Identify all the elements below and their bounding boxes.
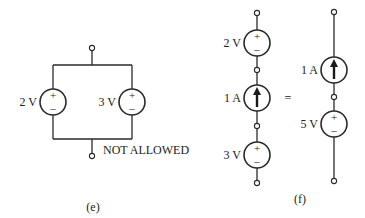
figure-e: + – 2 V + – 3 V NOT ALLOWED (e)	[20, 45, 190, 214]
not-allowed-note: NOT ALLOWED	[103, 143, 189, 157]
plus-sign: +	[254, 30, 260, 42]
terminal	[331, 9, 336, 14]
source-label: 3 V	[224, 148, 242, 162]
plus-sign: +	[331, 111, 337, 123]
plus-sign: +	[50, 89, 56, 101]
terminal-top	[89, 45, 94, 50]
minus-sign: –	[128, 102, 135, 114]
equals-sign: =	[285, 91, 292, 105]
source-label: 3 V	[99, 95, 117, 109]
voltage-source-2v: + – 2 V	[20, 89, 66, 115]
terminal	[254, 10, 259, 15]
circuit-diagrams: + – 2 V + – 3 V NOT ALLOWED (e)	[0, 0, 365, 218]
source-label: 2 V	[20, 95, 38, 109]
figure-f: + – 2 V 1 A + – 3 V =	[224, 9, 347, 206]
source-label: 5 V	[301, 117, 319, 131]
minus-sign: –	[49, 102, 56, 114]
voltage-source-3v: + – 3 V	[99, 89, 145, 115]
left-chain: + – 2 V 1 A + – 3 V	[224, 10, 270, 185]
terminal	[254, 123, 259, 128]
terminal	[254, 180, 259, 185]
caption-e: (e)	[86, 200, 99, 214]
source-label: 2 V	[224, 36, 242, 50]
minus-sign: –	[253, 155, 260, 167]
terminal	[254, 67, 259, 72]
minus-sign: –	[253, 43, 260, 55]
plus-sign: +	[129, 89, 135, 101]
caption-f: (f)	[294, 192, 306, 206]
current-source-1a: 1 A	[224, 85, 270, 111]
source-label: 1 A	[301, 63, 318, 77]
voltage-source-5v: + – 5 V	[301, 111, 347, 137]
terminal-bottom	[89, 153, 94, 158]
plus-sign: +	[254, 142, 260, 154]
source-label: 1 A	[224, 91, 241, 105]
voltage-source-3v: + – 3 V	[224, 142, 270, 168]
terminal	[331, 94, 336, 99]
voltage-source-2v: + – 2 V	[224, 30, 270, 56]
right-chain: 1 A + – 5 V	[301, 9, 347, 183]
minus-sign: –	[330, 124, 337, 136]
current-source-1a: 1 A	[301, 57, 347, 83]
terminal	[331, 178, 336, 183]
